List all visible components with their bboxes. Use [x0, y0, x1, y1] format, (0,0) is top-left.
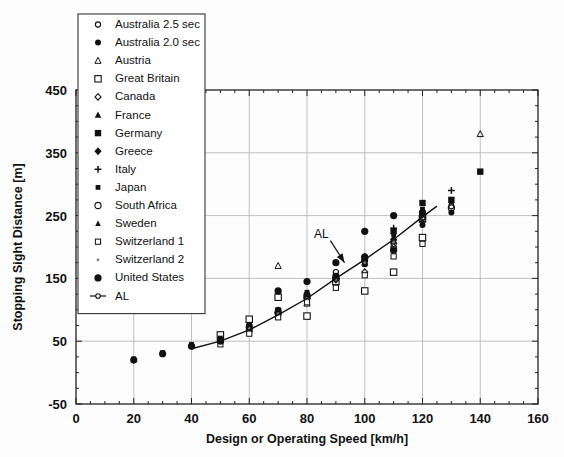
legend-item-label: Japan: [115, 181, 146, 193]
legend-marker-dot-small: [97, 258, 100, 261]
y-tick-label: 450: [45, 83, 67, 98]
data-point: [363, 261, 366, 264]
legend-item-label: Australia 2.5 sec: [115, 18, 200, 30]
legend-item-label: Greece: [115, 145, 153, 157]
legend-item-label: Switzerland 1: [115, 235, 184, 247]
data-point: [304, 313, 310, 319]
x-tick-label: 0: [72, 411, 79, 426]
legend-item-label: AL: [115, 290, 130, 302]
legend-item-label: Sweden: [115, 217, 157, 229]
y-tick-label: 350: [45, 146, 67, 161]
legend-item-label: Austria: [115, 54, 151, 66]
data-point: [304, 300, 309, 305]
data-point: [361, 228, 368, 235]
data-point: [130, 356, 137, 363]
legend-item-label: Germany: [115, 127, 163, 139]
y-tick-label: 50: [53, 334, 67, 349]
legend-item-label: Great Britain: [115, 72, 180, 84]
x-tick-label: 60: [242, 411, 256, 426]
data-point: [332, 259, 339, 266]
data-point: [333, 285, 338, 290]
legend-box: Australia 2.5 secAustralia 2.0 secAustri…: [78, 14, 205, 314]
legend-item-label: United States: [115, 271, 184, 283]
x-tick-label: 20: [127, 411, 141, 426]
data-point: [391, 254, 396, 259]
x-tick-label: 100: [354, 411, 376, 426]
legend-marker-filled-square: [95, 130, 101, 136]
x-tick-label: 80: [300, 411, 314, 426]
y-tick-label: 250: [45, 209, 67, 224]
x-tick-label: 40: [184, 411, 198, 426]
data-point: [159, 350, 166, 357]
legend-item-label: Switzerland 2: [115, 253, 184, 265]
legend-marker-open-square: [95, 76, 101, 82]
x-axis-label: Design or Operating Speed [km/h]: [206, 432, 408, 446]
data-point: [303, 278, 310, 285]
scatter-plot-canvas: 020406080100120140160-5050150250350450 A…: [0, 0, 564, 457]
chart-figure: 020406080100120140160-5050150250350450 A…: [0, 0, 564, 457]
legend-marker-filled-circle-large: [94, 274, 101, 281]
legend-marker-filled-square-small: [96, 185, 101, 190]
data-point: [477, 168, 483, 174]
x-tick-label: 120: [412, 411, 434, 426]
legend-item-label: Australia 2.0 sec: [115, 36, 200, 48]
y-tick-label: 150: [45, 271, 67, 286]
data-point: [362, 273, 367, 278]
data-point: [420, 241, 425, 246]
data-point: [390, 212, 397, 219]
legend-item-label: Canada: [115, 90, 156, 102]
y-tick-label: -50: [48, 397, 67, 412]
data-point: [449, 199, 454, 204]
data-point: [362, 288, 368, 294]
legend-marker-filled-circle: [95, 40, 101, 46]
legend-item-label: Italy: [115, 163, 136, 175]
data-point: [275, 287, 282, 294]
x-tick-label: 140: [469, 411, 491, 426]
data-point: [390, 269, 396, 275]
annotation-label: AL: [314, 227, 329, 241]
legend-item-label: France: [115, 109, 151, 121]
data-point: [419, 200, 425, 206]
legend-item-label: South Africa: [115, 199, 178, 211]
data-point: [419, 234, 425, 240]
legend-marker-open-square-small: [95, 239, 100, 244]
data-point: [275, 294, 281, 300]
y-axis-label: Stopping Sight Distance [m]: [11, 163, 25, 330]
data-point: [246, 316, 252, 322]
data-point: [247, 331, 252, 336]
x-tick-label: 160: [527, 411, 549, 426]
